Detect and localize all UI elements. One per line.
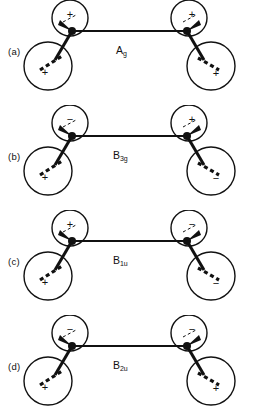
orbital-drawing: − + + −: [0, 105, 257, 210]
right-atom-node: [183, 342, 191, 350]
molecular-orbital-diagram: − + + −: [0, 105, 257, 210]
orbital-symmetry-figure: (a) Ag + + + +: [0, 0, 257, 416]
diagram-row: (c) B1u + + − −: [0, 210, 257, 315]
left-atom-node: [68, 237, 76, 245]
right-atom-node: [183, 132, 191, 140]
right-bottom-sign: −: [213, 277, 219, 289]
left-bottom-sign: +: [42, 171, 48, 183]
right-atom-node: [183, 27, 191, 35]
left-top-sign: −: [67, 113, 73, 125]
diagram-row: (b) B3g − + + −: [0, 105, 257, 210]
left-bottom-sign: +: [42, 66, 48, 78]
molecular-orbital-diagram: + + + +: [0, 0, 257, 105]
right-top-sign: −: [189, 218, 195, 230]
left-bottom-sign: +: [42, 276, 48, 288]
molecular-orbital-diagram: + + − −: [0, 210, 257, 315]
diagram-row: (a) Ag + + + +: [0, 0, 257, 105]
right-top-sign: +: [189, 113, 195, 125]
right-top-sign: +: [189, 8, 195, 20]
right-bottom-sign: +: [213, 382, 219, 394]
left-top-sign: −: [67, 323, 73, 335]
left-top-sign: +: [67, 218, 73, 230]
orbital-drawing: − + − +: [0, 315, 257, 416]
orbital-drawing: + + − −: [0, 210, 257, 315]
left-bottom-sign: +: [42, 381, 48, 393]
orbital-drawing: + + + +: [0, 0, 257, 105]
right-atom-node: [183, 237, 191, 245]
right-bottom-sign: +: [213, 67, 219, 79]
left-top-sign: +: [67, 8, 73, 20]
right-bottom-sign: −: [213, 172, 219, 184]
left-atom-node: [68, 132, 76, 140]
molecular-orbital-diagram: − + − +: [0, 315, 257, 416]
left-atom-node: [68, 27, 76, 35]
right-top-sign: −: [189, 323, 195, 335]
diagram-row: (d) B2u − + − +: [0, 315, 257, 416]
left-atom-node: [68, 342, 76, 350]
